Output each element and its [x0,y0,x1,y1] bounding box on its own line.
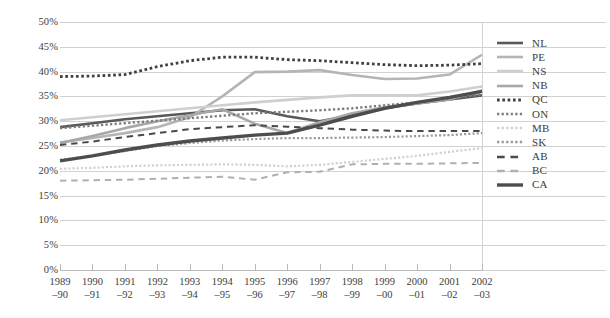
line-chart: 0%5%10%15%20%25%30%35%40%45%50% 1989–901… [0,0,610,318]
legend-label: QC [532,94,548,105]
legend-item-ab[interactable]: AB [497,150,607,164]
legend-item-nl[interactable]: NL [497,36,607,50]
legend-swatch-ns-icon [497,66,523,76]
legend-item-on[interactable]: ON [497,107,607,121]
legend-swatch-nl-icon [497,38,523,48]
legend-item-bc[interactable]: BC [497,164,607,178]
series-line-sk [60,133,482,160]
legend-item-ns[interactable]: NS [497,64,607,78]
legend-label: BC [532,165,547,176]
legend-item-mb[interactable]: MB [497,121,607,135]
legend-item-ca[interactable]: CA [497,178,607,192]
legend-swatch-pe-icon [497,52,523,62]
series-line-on [60,94,482,128]
legend-item-pe[interactable]: PE [497,50,607,64]
legend-swatch-mb-icon [497,123,523,133]
legend-swatch-ab-icon [497,152,523,162]
legend-label: NB [532,80,548,91]
legend-item-nb[interactable]: NB [497,79,607,93]
legend-label: NS [532,66,546,77]
series-line-qc [60,57,482,76]
legend-label: SK [532,137,546,148]
legend-swatch-bc-icon [497,166,523,176]
legend-item-qc[interactable]: QC [497,93,607,107]
legend-swatch-nb-icon [497,81,523,91]
legend-label: NL [532,38,547,49]
legend-swatch-qc-icon [497,95,523,105]
legend-item-sk[interactable]: SK [497,135,607,149]
legend-label: CA [532,179,548,190]
legend-label: ON [532,109,548,120]
legend-label: AB [532,151,548,162]
legend-label: MB [532,123,550,134]
chart-legend: NLPENSNBQCONMBSKABBCCA [497,36,607,192]
legend-swatch-ca-icon [497,180,523,190]
legend-label: PE [532,52,545,63]
legend-swatch-sk-icon [497,137,523,147]
legend-swatch-on-icon [497,109,523,119]
